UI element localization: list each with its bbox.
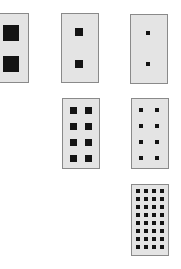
- dot-panel-p1: [0, 13, 29, 83]
- black-square: [70, 107, 77, 114]
- black-square: [144, 237, 148, 241]
- black-square: [144, 189, 148, 193]
- black-square: [160, 221, 164, 225]
- black-square: [160, 245, 164, 249]
- black-square: [152, 213, 156, 217]
- black-square: [144, 245, 148, 249]
- black-square: [152, 229, 156, 233]
- dot-panel-p2: [61, 13, 99, 83]
- black-square: [144, 229, 148, 233]
- black-square: [70, 155, 77, 162]
- black-square: [152, 221, 156, 225]
- dot-panel-p3: [130, 14, 168, 84]
- black-square: [155, 140, 159, 144]
- black-square: [3, 56, 19, 72]
- black-square: [136, 229, 140, 233]
- black-square: [136, 245, 140, 249]
- black-square: [160, 213, 164, 217]
- black-square: [144, 221, 148, 225]
- black-square: [139, 124, 143, 128]
- black-square: [155, 156, 159, 160]
- black-square: [160, 197, 164, 201]
- black-square: [152, 205, 156, 209]
- black-square: [70, 139, 77, 146]
- black-square: [136, 237, 140, 241]
- black-square: [155, 124, 159, 128]
- black-square: [144, 197, 148, 201]
- black-square: [146, 62, 150, 66]
- black-square: [136, 213, 140, 217]
- black-square: [160, 229, 164, 233]
- black-square: [75, 28, 83, 36]
- black-square: [152, 237, 156, 241]
- black-square: [136, 197, 140, 201]
- black-square: [136, 189, 140, 193]
- black-square: [139, 108, 143, 112]
- black-square: [85, 107, 92, 114]
- black-square: [3, 25, 19, 41]
- black-square: [75, 60, 83, 68]
- black-square: [139, 156, 143, 160]
- figure-canvas: [0, 0, 181, 269]
- dot-panel-p5: [131, 98, 169, 169]
- black-square: [144, 213, 148, 217]
- black-square: [136, 221, 140, 225]
- black-square: [70, 123, 77, 130]
- black-square: [139, 140, 143, 144]
- black-square: [146, 31, 150, 35]
- black-square: [85, 139, 92, 146]
- black-square: [85, 123, 92, 130]
- black-square: [160, 189, 164, 193]
- black-square: [136, 205, 140, 209]
- black-square: [85, 155, 92, 162]
- black-square: [144, 205, 148, 209]
- dot-panel-p4: [62, 98, 100, 169]
- black-square: [155, 108, 159, 112]
- black-square: [152, 245, 156, 249]
- black-square: [152, 189, 156, 193]
- black-square: [160, 237, 164, 241]
- black-square: [152, 197, 156, 201]
- black-square: [160, 205, 164, 209]
